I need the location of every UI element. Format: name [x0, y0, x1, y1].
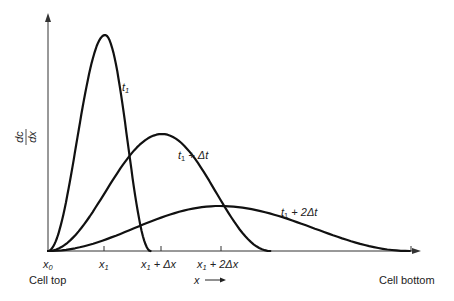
y-label-denominator: dx [26, 131, 38, 143]
y-axis-arrow-icon [45, 13, 51, 22]
curve-t1 [48, 35, 151, 251]
x-tick-label-x1-dx: x1 + Δx [140, 258, 177, 272]
series-label-t1-plus-2dt: t1 + 2Δt [281, 206, 318, 220]
cell-bottom-label: Cell bottom [379, 274, 435, 286]
y-axis-label: dc dx [13, 129, 38, 145]
x-tick-label-x1: x1 [98, 258, 109, 272]
x-axis-arrow-icon [412, 248, 421, 254]
y-label-numerator: dc [13, 131, 25, 143]
series-label-t1-plus-dt: t1 + Δt [178, 149, 209, 163]
curve-t1-plus-dt [48, 134, 270, 251]
cell-top-label: Cell top [29, 274, 66, 286]
x-axis-label: x [193, 274, 200, 286]
x-tick-label-x1-2dx: x1 + 2Δx [196, 258, 239, 272]
series-label-t1: t1 [122, 81, 129, 95]
x-tick-label-x0: x0 [42, 258, 54, 272]
x-axis-label-arrow-icon [220, 278, 226, 283]
sedimentation-diagram: t1 t1 + Δt t1 + 2Δt x0 x1 x1 + Δx x1 + 2… [0, 0, 454, 301]
